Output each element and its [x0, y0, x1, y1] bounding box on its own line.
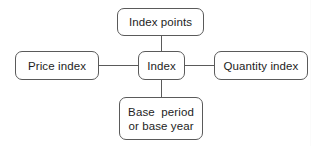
- node-index-points[interactable]: Index points: [117, 8, 204, 36]
- node-price-index-label: Price index: [28, 59, 86, 73]
- node-price-index[interactable]: Price index: [15, 51, 99, 80]
- node-base-period-label-line-1: Base period: [128, 105, 194, 119]
- node-quantity-index[interactable]: Quantity index: [214, 51, 308, 80]
- node-quantity-index-label: Quantity index: [224, 59, 299, 73]
- diagram-canvas: Index points Price index Index Quantity …: [0, 0, 317, 146]
- node-index-label: Index: [147, 59, 176, 73]
- right-edge-artifact: [310, 0, 311, 146]
- node-base-period-label-line-2: or base year: [128, 119, 193, 133]
- node-index-points-label: Index points: [129, 15, 192, 29]
- node-base-period[interactable]: Base period or base year: [119, 97, 203, 140]
- node-index[interactable]: Index: [138, 51, 185, 80]
